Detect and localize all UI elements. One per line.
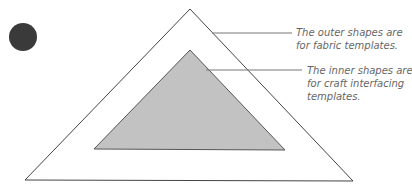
annotation-line: for fabric templates.: [296, 39, 403, 52]
dot-marker: [9, 23, 37, 51]
outer-shapes-annotation: The outer shapes are for fabric template…: [296, 26, 403, 52]
annotation-line: templates.: [307, 90, 412, 103]
annotation-line: The inner shapes are: [307, 64, 412, 77]
template-diagram: The outer shapes are for fabric template…: [0, 0, 412, 191]
inner-shapes-annotation: The inner shapes are for craft interfaci…: [307, 64, 412, 103]
annotation-line: The outer shapes are: [296, 26, 403, 39]
annotation-line: for craft interfacing: [307, 77, 412, 90]
